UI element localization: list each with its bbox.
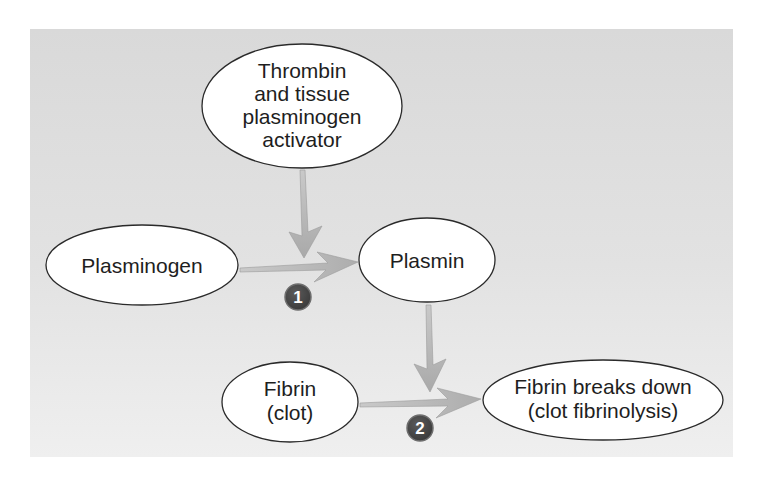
node-fibrin-line-1: Fibrin xyxy=(264,377,317,400)
arrow-plasmin-to-step2 xyxy=(414,305,446,392)
node-fibrinolysis-line-1: Fibrin breaks down xyxy=(514,375,691,398)
node-plasminogen-label: Plasminogen xyxy=(81,254,202,277)
arrow-activator-to-step1 xyxy=(289,170,322,258)
step-badge-2: 2 xyxy=(407,415,433,441)
node-fibrinolysis-line-2: (clot fibrinolysis) xyxy=(528,399,679,422)
step-badge-1-label: 1 xyxy=(293,288,302,307)
node-fibrinolysis: Fibrin breaks down (clot fibrinolysis) xyxy=(483,360,723,440)
node-activator-line-3: plasminogen xyxy=(242,105,361,128)
step-badge-1: 1 xyxy=(285,284,311,310)
node-plasminogen: Plasminogen xyxy=(46,225,238,305)
node-activator-line-1: Thrombin xyxy=(258,59,347,82)
plasmin-fibrinolysis-diagram: Thrombin and tissue plasminogen activato… xyxy=(0,0,759,481)
node-plasmin-label: Plasmin xyxy=(390,249,465,272)
node-fibrin-line-2: (clot) xyxy=(267,401,314,424)
node-activator-line-4: activator xyxy=(262,128,341,151)
arrow-fibrin-to-fibrinolysis xyxy=(360,388,481,418)
arrow-plasminogen-to-plasmin xyxy=(240,252,358,282)
node-activator-line-2: and tissue xyxy=(254,82,350,105)
node-activator: Thrombin and tissue plasminogen activato… xyxy=(202,44,402,168)
step-badge-2-label: 2 xyxy=(415,419,424,438)
node-fibrin: Fibrin (clot) xyxy=(222,362,358,442)
node-plasmin: Plasmin xyxy=(359,218,495,302)
